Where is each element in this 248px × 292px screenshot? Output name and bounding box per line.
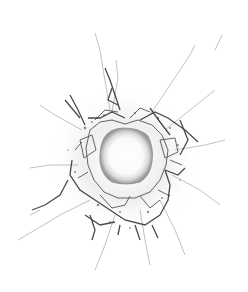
bullet-hole	[100, 128, 153, 184]
bullet-hole-graphic	[0, 0, 248, 292]
cracked-glass-icon	[0, 0, 248, 292]
